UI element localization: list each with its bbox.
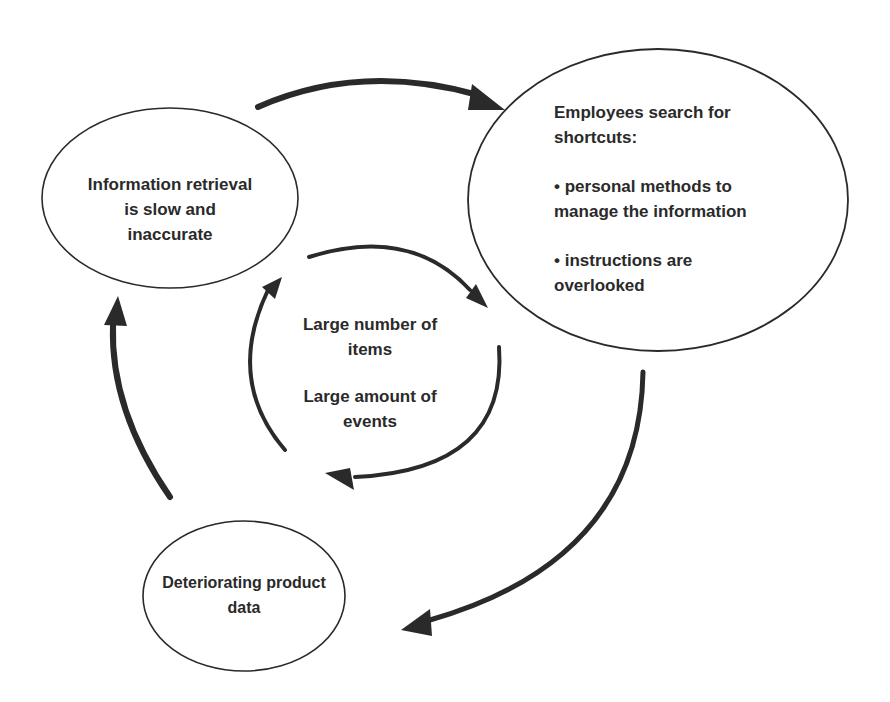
inner-item-line: events bbox=[270, 409, 470, 434]
arrow-retrieval-to-shortcuts bbox=[258, 81, 505, 110]
bullet-line: • instructions are bbox=[554, 248, 814, 273]
title-line: Employees search for bbox=[554, 100, 814, 125]
inner-item-line: Large amount of bbox=[270, 384, 470, 409]
bullet-item: • personal methods to manage the informa… bbox=[554, 174, 814, 224]
bullet-item: • instructions are overlooked bbox=[554, 248, 814, 298]
node-deteriorating-data: Deteriorating product data bbox=[140, 570, 348, 620]
node-info-retrieval-line: inaccurate bbox=[60, 222, 280, 247]
node-info-retrieval: Information retrieval is slow and inaccu… bbox=[60, 172, 280, 247]
title-line: shortcuts: bbox=[554, 125, 814, 150]
arrow-deteriorating-to-retrieval bbox=[104, 296, 170, 497]
bullet-line: • personal methods to bbox=[554, 174, 814, 199]
node-deteriorating-data-line: data bbox=[140, 595, 348, 620]
inner-item-line: items bbox=[270, 337, 470, 362]
node-employees-shortcuts: Employees search for shortcuts: • person… bbox=[554, 100, 814, 298]
inner-item-line: Large number of bbox=[270, 312, 470, 337]
node-info-retrieval-line: Information retrieval bbox=[60, 172, 280, 197]
node-info-retrieval-line: is slow and bbox=[60, 197, 280, 222]
node-inner-cycle: Large number of items Large amount of ev… bbox=[270, 312, 470, 434]
node-employees-shortcuts-title: Employees search for shortcuts: bbox=[554, 100, 814, 150]
bullet-line: overlooked bbox=[554, 273, 814, 298]
node-deteriorating-data-line: Deteriorating product bbox=[140, 570, 348, 595]
bullet-line: manage the information bbox=[554, 199, 814, 224]
